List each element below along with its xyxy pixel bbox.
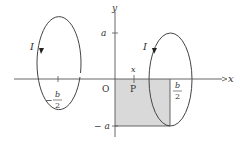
point-p-label: P bbox=[130, 84, 136, 94]
left-loop-center-num: b bbox=[55, 90, 60, 99]
right-loop-center-den: 2 bbox=[175, 92, 180, 101]
shaded-region bbox=[115, 79, 170, 126]
y-axis-label: y bbox=[111, 3, 118, 13]
left-loop-current-label: I bbox=[29, 41, 35, 52]
right-loop-center-num: b bbox=[175, 81, 180, 90]
two-current-loops-diagram: x y a − a O I − b 2 I b 2 x P bbox=[0, 0, 239, 145]
point-p-coord-label: x bbox=[131, 65, 136, 74]
left-loop-center-sign: − bbox=[45, 95, 53, 105]
x-axis-arrow-icon bbox=[222, 77, 227, 81]
x-axis-label: x bbox=[228, 73, 234, 84]
right-loop-current-label: I bbox=[142, 41, 148, 52]
origin-label: O bbox=[102, 84, 109, 94]
left-loop-center-den: 2 bbox=[55, 101, 60, 110]
tick-neg-a-label: − a bbox=[94, 121, 110, 131]
left-loop-direction-arrow-icon bbox=[39, 48, 44, 54]
tick-a-label: a bbox=[101, 28, 106, 38]
